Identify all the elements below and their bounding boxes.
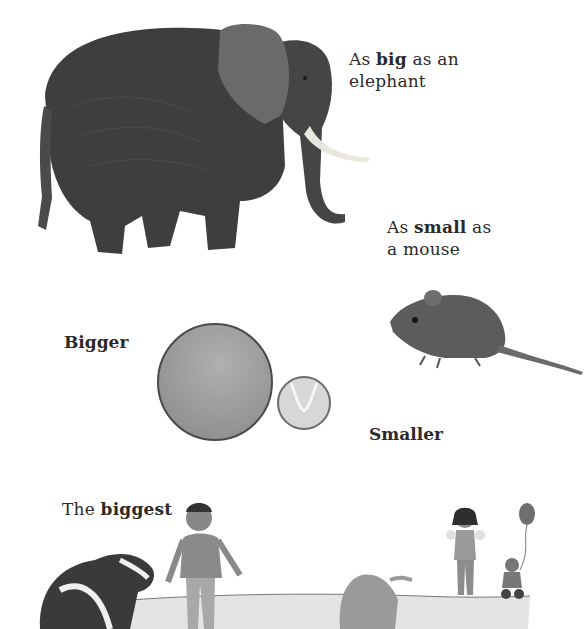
park-scene-illustration [0,500,582,629]
smaller-label: Smaller [369,424,443,444]
elephant-caption: As big as an elephant [349,48,459,92]
mouse-caption: As small as a mouse [387,216,491,260]
bigger-label: Bigger [64,332,128,352]
elephant-image [30,16,375,256]
tennis-ball-image [276,375,332,431]
mouse-image [385,280,585,380]
big-ball-image [155,322,275,442]
